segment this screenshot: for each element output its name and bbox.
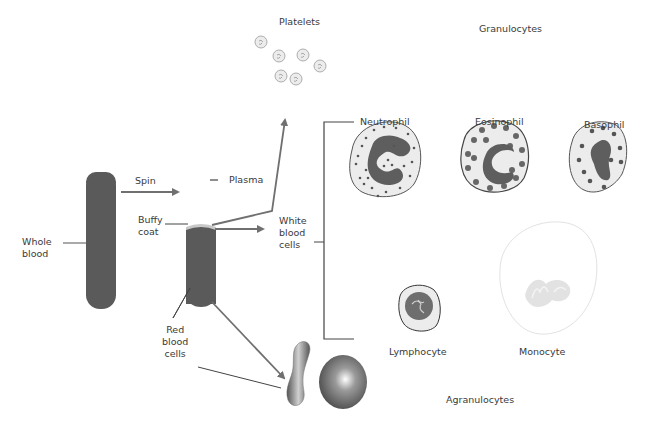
rbc-label-leader xyxy=(198,367,281,388)
eosinophil-cell xyxy=(461,121,529,192)
rbc-arrow xyxy=(212,302,284,378)
platelets-group xyxy=(255,36,326,85)
buffy-coat-label: Buffy coat xyxy=(138,214,163,238)
white-blood-cells-label: White blood cells xyxy=(279,215,307,251)
platelets-label: Platelets xyxy=(279,16,320,28)
platelets-arrow xyxy=(212,120,285,225)
whole-blood-label-line1: Whole xyxy=(22,236,52,248)
neutrophil-label: Neutrophil xyxy=(360,116,410,128)
basophil-cell xyxy=(569,122,626,192)
wbc-label-line3: cells xyxy=(279,239,307,251)
agranulocytes-label: Agranulocytes xyxy=(446,394,514,406)
red-blood-cells-label: Red blood cells xyxy=(162,324,188,360)
buffy-coat-label-line2: coat xyxy=(138,226,163,238)
monocyte-cell xyxy=(500,222,597,334)
wbc-label-line2: blood xyxy=(279,227,307,239)
diagram-canvas xyxy=(0,0,652,425)
lymphocyte-cell xyxy=(399,285,440,331)
whole-blood-label: Whole blood xyxy=(22,236,52,260)
plasma-label: Plasma xyxy=(229,174,263,186)
monocyte-label: Monocyte xyxy=(519,346,565,358)
eosinophil-label: Eosinophil xyxy=(475,116,524,128)
buffy-coat-label-line1: Buffy xyxy=(138,214,163,226)
neutrophil-cell xyxy=(350,122,421,197)
separated-tube xyxy=(186,224,216,307)
rbc-side-view xyxy=(287,342,310,406)
platelet-granules xyxy=(259,40,322,81)
wbc-label-line1: White xyxy=(279,215,307,227)
spin-label: Spin xyxy=(135,175,156,187)
rbc-label-line1: Red xyxy=(162,324,188,336)
whole-blood-label-line2: blood xyxy=(22,248,52,260)
whole-blood-tube xyxy=(86,172,116,309)
rbc-label-line2: blood xyxy=(162,336,188,348)
granulocytes-label: Granulocytes xyxy=(479,23,542,35)
lymphocyte-label: Lymphocyte xyxy=(389,346,447,358)
leukocyte-bracket xyxy=(324,122,354,339)
basophil-label: Basophil xyxy=(584,119,624,131)
rbc-label-line3: cells xyxy=(162,348,188,360)
rbc-sphere xyxy=(319,355,367,409)
